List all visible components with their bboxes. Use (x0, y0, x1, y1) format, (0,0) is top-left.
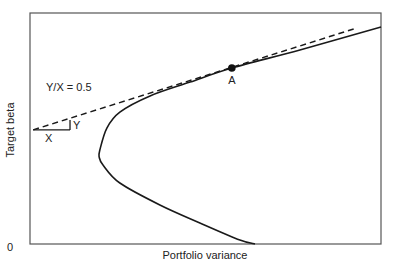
frontier-curve (99, 27, 381, 244)
slope-y-label: Y (73, 119, 81, 131)
plot-frame (30, 13, 381, 244)
slope-annotation: Y/X = 0.5 (46, 81, 92, 93)
chart: A Y/X = 0.5 X Y 0 Portfolio variance Tar… (0, 0, 394, 265)
y-axis-label: Target beta (4, 102, 16, 158)
y-tick-label-0: 0 (7, 241, 13, 253)
tangent-point-a (228, 64, 236, 72)
point-a-label: A (228, 74, 236, 86)
x-axis-label: Portfolio variance (163, 249, 248, 261)
slope-x-label: X (45, 132, 53, 144)
tangent-dashed-line (33, 29, 354, 130)
